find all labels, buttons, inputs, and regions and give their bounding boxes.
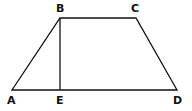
label-c: C xyxy=(131,2,139,15)
trapezoid-diagram: B C A E D xyxy=(0,0,192,111)
label-d: D xyxy=(173,94,182,107)
label-e: E xyxy=(56,94,64,107)
trapezoid-abcd xyxy=(12,18,177,90)
label-b: B xyxy=(56,2,64,15)
label-a: A xyxy=(7,94,16,107)
